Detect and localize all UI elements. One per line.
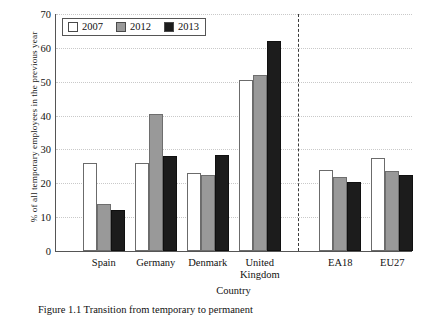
x-axis-tick-label: United Kingdom: [240, 257, 280, 280]
bar-spain-2013: [111, 210, 125, 251]
legend-swatch-2012: [116, 22, 126, 32]
y-axis-tick-label: 50: [41, 76, 52, 87]
x-axis-tick-label: Spain: [92, 257, 116, 269]
legend-item-2012: 2012: [116, 21, 151, 32]
y-axis-tick-label: 30: [41, 144, 52, 155]
bar-united-kingdom-2013: [267, 41, 281, 251]
bar-group: Spain: [78, 14, 130, 251]
x-axis-tick-label: EA18: [328, 257, 353, 269]
figure-caption: Figure 1.1 Transition from temporary to …: [38, 304, 426, 315]
legend-swatch-2007: [68, 22, 78, 32]
bar-denmark-2012: [201, 175, 215, 251]
bar-group: United Kingdom: [234, 14, 286, 251]
bar-spain-2012: [97, 204, 111, 251]
bar-germany-2007: [135, 163, 149, 251]
bar-spain-2007: [83, 163, 97, 251]
bar-germany-2012: [149, 114, 163, 251]
x-axis-title: Country: [55, 285, 412, 296]
y-axis-tick-label: 10: [41, 212, 52, 223]
y-axis-tick-label: 0: [46, 246, 51, 257]
aggregate-separator-line: [298, 14, 299, 251]
bar-united-kingdom-2007: [239, 80, 253, 251]
legend-swatch-2013: [164, 22, 174, 32]
legend-label: 2013: [178, 21, 199, 32]
legend: 200720122013: [62, 18, 206, 36]
x-axis-tick-label: Denmark: [188, 257, 227, 269]
bar-eu27-2007: [371, 158, 385, 251]
x-axis-tick-label: EU27: [380, 257, 405, 269]
bar-group: EU27: [366, 14, 418, 251]
bar-germany-2013: [163, 156, 177, 251]
bar-eu27-2012: [385, 171, 399, 251]
bar-eu27-2013: [399, 175, 413, 251]
y-axis-tick-label: 20: [41, 178, 52, 189]
y-axis-tick-label: 40: [41, 110, 52, 121]
legend-label: 2012: [130, 21, 151, 32]
y-axis-tick-label: 60: [41, 42, 52, 53]
legend-item-2013: 2013: [164, 21, 199, 32]
y-axis-title: % of all temporary employees in the prev…: [29, 7, 39, 247]
plot-area: 010203040506070 SpainGermanyDenmarkUnite…: [55, 14, 412, 252]
legend-item-2007: 2007: [68, 21, 103, 32]
bar-denmark-2013: [215, 155, 229, 251]
legend-label: 2007: [82, 21, 103, 32]
bar-ea18-2007: [319, 170, 333, 251]
x-axis-tick-label: Germany: [136, 257, 175, 269]
bar-group: EA18: [314, 14, 366, 251]
bar-group: Denmark: [182, 14, 234, 251]
bar-ea18-2013: [347, 182, 361, 251]
bar-united-kingdom-2012: [253, 75, 267, 251]
y-axis-tick-label: 70: [41, 9, 52, 20]
bar-group: Germany: [130, 14, 182, 251]
bar-ea18-2012: [333, 177, 347, 251]
bar-denmark-2007: [187, 173, 201, 251]
